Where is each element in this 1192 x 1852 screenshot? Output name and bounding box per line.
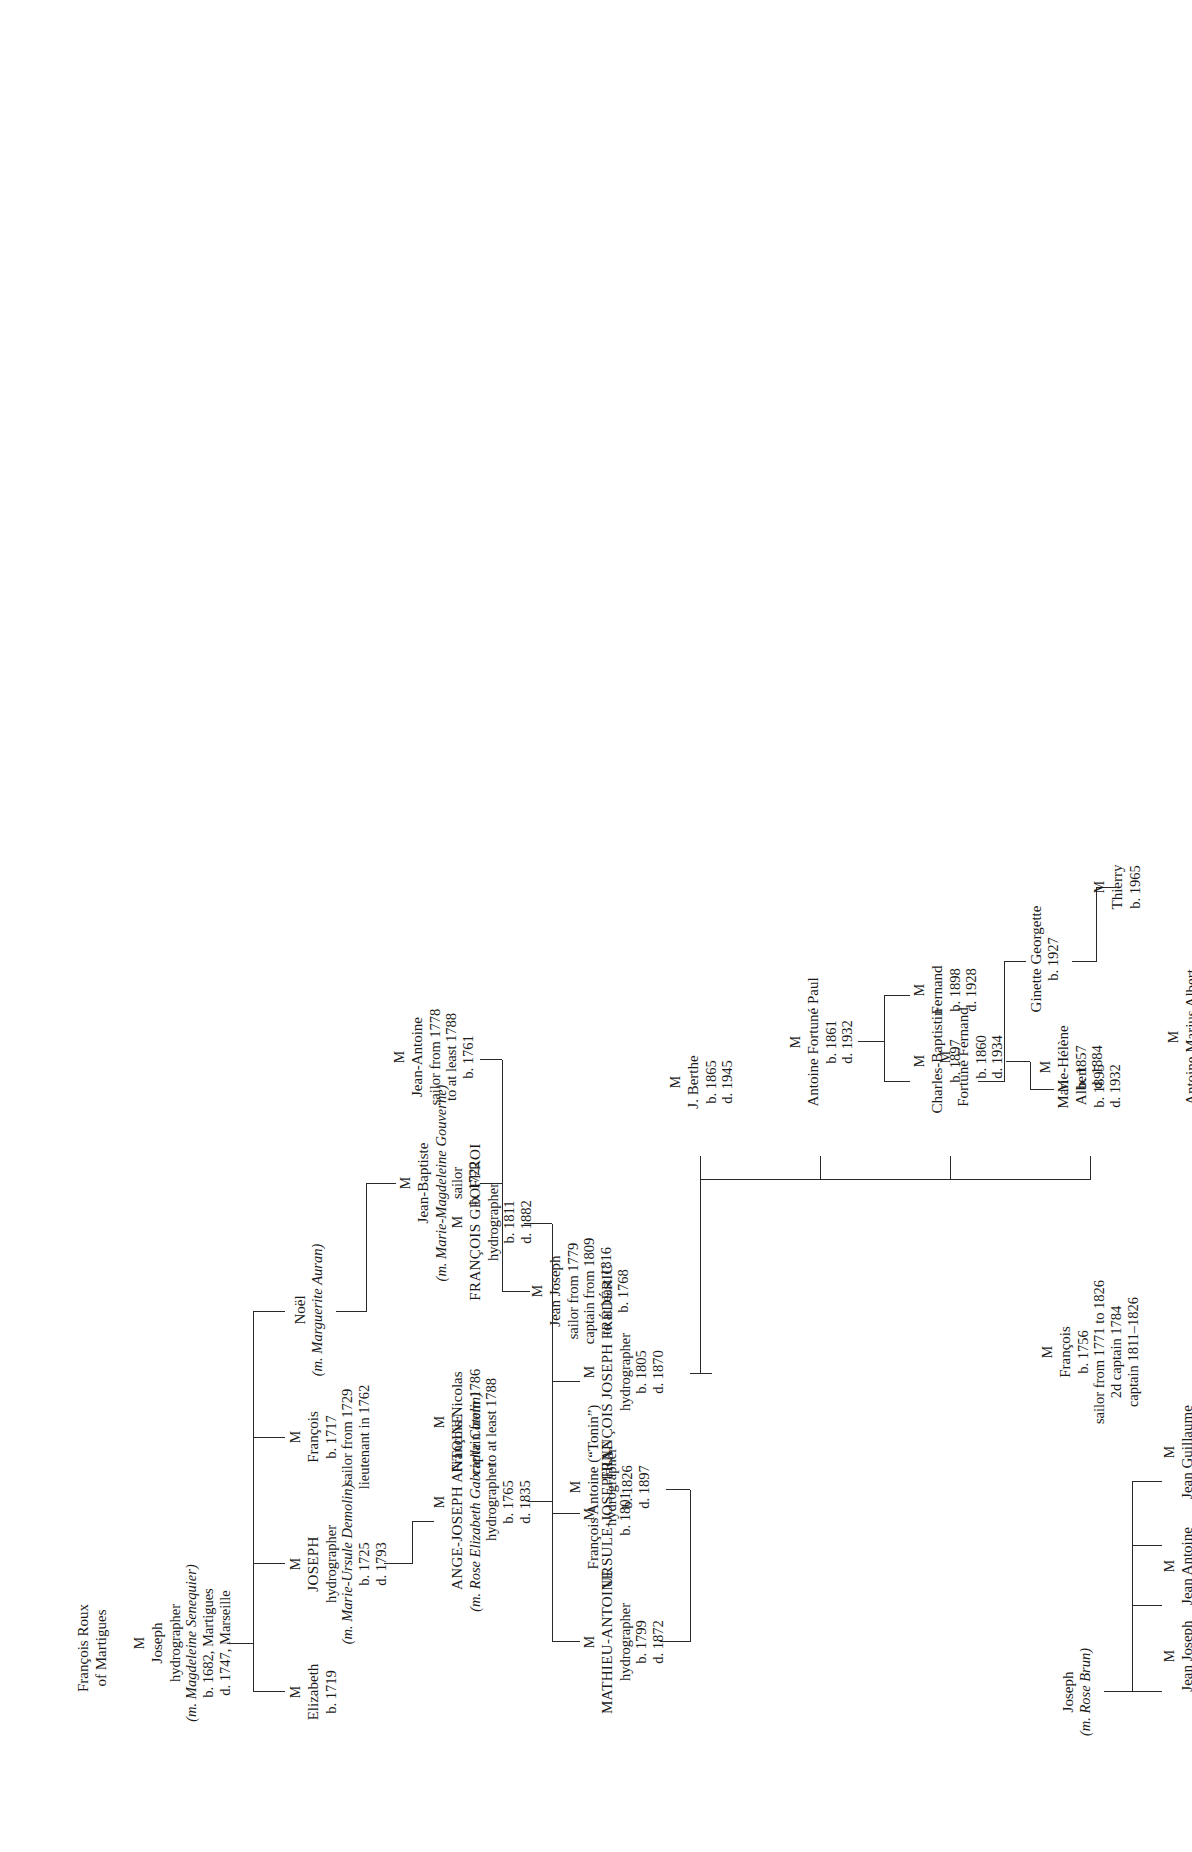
person-death: d. 1897 <box>636 1372 653 1602</box>
root-label-line-1: François Roux <box>75 1604 93 1692</box>
marriage-marker: M <box>132 1528 148 1758</box>
person-birth: b. 1861 <box>823 932 840 1152</box>
person-name: Antoine Marius Albert <box>1183 922 1192 1152</box>
marriage-marker: M <box>912 920 928 1060</box>
person-occupation: hydrographer <box>485 1092 502 1352</box>
connector <box>366 1183 396 1184</box>
person-death: d. 1932 <box>1107 1026 1124 1146</box>
person-thierry: M Thierry b. 1965 <box>1092 822 1143 952</box>
person-joseph-rose-brun: Joseph(m. Rose Brun) <box>1060 1602 1094 1782</box>
person-occupation: hydrographer <box>603 1372 620 1602</box>
connector <box>1132 1481 1162 1482</box>
connector <box>700 1180 701 1374</box>
person-name: Joseph <box>1060 1602 1077 1782</box>
person-noel: Noël (m. Marguerite Auran) <box>292 1220 326 1400</box>
connector <box>884 995 910 996</box>
connector <box>552 1641 580 1642</box>
person-name: Marie-Hélène <box>1055 982 1072 1152</box>
person-name: Jean Joseph <box>547 1196 564 1386</box>
connector <box>253 1311 285 1312</box>
connector <box>412 1521 434 1522</box>
connector <box>1004 961 1026 962</box>
marriage-marker: M <box>432 1342 448 1662</box>
marriage-marker: M <box>1162 1352 1178 1552</box>
connector <box>1132 1482 1133 1692</box>
person-birth: b. 1826 <box>619 1372 636 1602</box>
person-death: d. 1945 <box>719 1012 736 1152</box>
person-name: Jean-Antoine <box>409 962 426 1152</box>
marriage-marker: M <box>1166 922 1182 1152</box>
connector <box>660 1641 690 1642</box>
marriage-marker: M <box>1040 1232 1056 1472</box>
person-spouse: (m. Magdeleine Senequier) <box>183 1528 200 1758</box>
person-name: FRANÇOIS GEOFFROI <box>467 1092 484 1352</box>
connector <box>253 1563 285 1564</box>
person-occupation: hydrographer <box>483 1342 500 1662</box>
connector <box>820 1156 821 1180</box>
connector <box>384 1563 412 1564</box>
connector <box>366 1184 367 1312</box>
marriage-marker: M <box>568 1372 584 1602</box>
connector <box>336 1311 366 1312</box>
person-francois-antoine-tonin: M François Antoine (“Tonin”) hydrographe… <box>568 1372 653 1602</box>
connector <box>884 996 885 1082</box>
person-death: d. 1932 <box>839 932 856 1152</box>
person-spouse: (m. Rose Brun) <box>1077 1602 1094 1782</box>
connector <box>1104 1691 1132 1692</box>
person-name: ANGE-JOSEPH ANTOINE <box>449 1342 466 1662</box>
connector <box>1132 1545 1162 1546</box>
person-marie-helene: MMarie-Hélèneb. 1857d. 1884 <box>1038 982 1106 1152</box>
person-birth: b. 1860 <box>973 962 990 1152</box>
person-birth: b. 1765 <box>500 1342 517 1662</box>
marriage-marker: M <box>668 1012 684 1152</box>
person-detail-1: b. 1857 <box>1073 982 1090 1152</box>
person-death: d. 1793 <box>373 1449 390 1679</box>
person-occupation: hydrographer <box>167 1528 184 1758</box>
family-tree-canvas: François Roux of Martigues M Joseph hydr… <box>0 0 1192 1852</box>
connector <box>666 1489 690 1490</box>
connector <box>690 1490 691 1642</box>
person-name: Jean Guillaume <box>1179 1352 1192 1552</box>
connector <box>412 1522 413 1564</box>
root-label-line-2: of Martigues <box>93 1604 111 1692</box>
person-spouse: (m. Marguerite Auran) <box>309 1220 326 1400</box>
person-detail-3: 2d captain 1784 <box>1108 1232 1125 1472</box>
person-name: François <box>1057 1232 1074 1472</box>
person-name: Antoine Fortuné Paul <box>805 932 822 1152</box>
marriage-marker: M <box>938 962 954 1152</box>
connector <box>552 1224 553 1642</box>
connector <box>1090 1156 1091 1180</box>
person-antoine-fortune-paul: M Antoine Fortuné Paul b. 1861 d. 1932 <box>788 932 856 1152</box>
person-spouse: (m. Rose Elizabeth Gabrielle Catelin) <box>467 1342 484 1662</box>
connector <box>1030 1062 1031 1090</box>
person-birth: b. 1865 <box>703 1012 720 1152</box>
marriage-marker: M <box>788 932 804 1152</box>
connector <box>253 1691 285 1692</box>
person-career-2: lieutenant in 1762 <box>356 1352 373 1522</box>
rotated-chart-wrapper: François Roux of Martigues M Joseph hydr… <box>0 0 1192 1852</box>
person-detail-2: d. 1884 <box>1089 982 1106 1152</box>
person-antoine-marius-albert: MAntoine Marius Albertb. 1856d. 1933 <box>1166 922 1192 1152</box>
marriage-marker: M <box>392 962 408 1152</box>
person-jean-guillaume: MJean Guillaumeb. 1761sailor from at lea… <box>1162 1352 1192 1552</box>
connector <box>1006 1061 1030 1062</box>
connector <box>253 1437 285 1438</box>
person-name: J. Berthe <box>685 1012 702 1152</box>
root-label: François Roux of Martigues <box>75 1604 110 1692</box>
person-fortune-fernand: M Fortuné Fernand b. 1860 d. 1934 <box>938 962 1006 1152</box>
connector <box>1072 961 1096 962</box>
person-death: d. 1882 <box>518 1092 535 1352</box>
person-name: François Antoine (“Tonin”) <box>585 1372 602 1602</box>
person-name: Joseph <box>149 1528 166 1758</box>
connector <box>700 1156 701 1180</box>
person-detail-1: b. 1756 <box>1075 1232 1092 1472</box>
person-name: Noël <box>292 1220 309 1400</box>
person-death: d. 1835 <box>517 1342 534 1662</box>
person-career-1: sailor from 1779 <box>565 1196 582 1386</box>
person-birth: b. 1811 <box>501 1092 518 1352</box>
person-name: Thierry <box>1109 822 1126 952</box>
connector <box>700 1179 1090 1180</box>
person-ange-joseph-antoine: M ANGE-JOSEPH ANTOINE (m. Rose Elizabeth… <box>432 1342 534 1662</box>
person-francois-1756: MFrançoisb. 1756sailor from 1771 to 1826… <box>1040 1232 1142 1472</box>
marriage-marker: M <box>1092 822 1108 952</box>
